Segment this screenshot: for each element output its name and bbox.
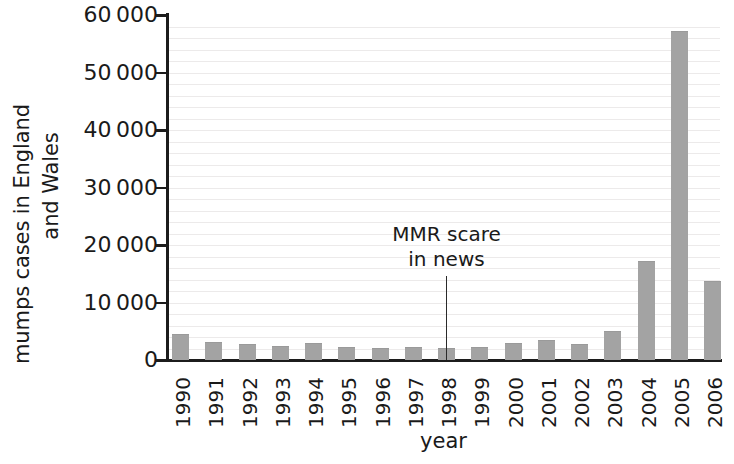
x-axis-tick-text: 1993 [273,377,293,428]
x-axis-tick-text: 1996 [373,377,393,428]
x-axis-tick-text: 2004 [639,377,659,428]
x-axis-tick-label: 2003 [603,364,625,430]
x-axis-tick-labels: 1990199119921993199419951996199719981999… [167,364,720,430]
x-axis-tick-text: 2000 [506,377,526,428]
y-axis-title-line-1: mumps cases in England [8,8,37,364]
x-axis-tick-text: 2005 [672,377,692,428]
bar [538,340,555,360]
bar [505,343,522,360]
x-axis-tick-text: 2002 [572,377,592,428]
x-axis-tick-text: 2001 [539,377,559,428]
x-axis-tick-label: 1995 [337,364,359,430]
mmr-scare-annotation: MMR scare in news [372,222,522,272]
x-axis-tick-text: 1995 [339,377,359,428]
x-axis-tick-label: 2001 [537,364,559,430]
bar [704,281,721,360]
x-axis-tick-text: 2006 [705,377,725,428]
bar [405,347,422,360]
bar [239,344,256,360]
x-axis-tick-label: 2006 [703,364,725,430]
x-axis-tick-label: 2002 [570,364,592,430]
bar [638,261,655,360]
bar [571,344,588,360]
bar [471,347,488,360]
x-axis-tick-label: 1994 [304,364,326,430]
x-axis-tick-label: 1999 [470,364,492,430]
y-axis-tick-label: 30 000 [54,177,158,199]
mumps-cases-bar-chart: mumps cases in England and Wales 010 000… [0,0,734,464]
bar [205,342,222,360]
annotation-leader-line [446,276,448,360]
y-axis-tick-label: 10 000 [54,292,158,314]
bar [305,343,322,360]
annotation-line-2: in news [372,247,522,272]
annotation-line-1: MMR scare [372,222,522,247]
x-axis-tick-text: 2003 [605,377,625,428]
bar [272,346,289,360]
x-axis-tick-label: 1993 [271,364,293,430]
x-axis-tick-label: 1990 [171,364,193,430]
x-axis-tick-text: 1992 [240,377,260,428]
y-axis-tick-labels: 010 00020 00030 00040 00050 00060 000 [54,0,158,372]
x-axis-tick-label: 2000 [504,364,526,430]
y-axis-title: mumps cases in England and Wales [0,0,62,372]
y-axis-tick-label: 0 [54,349,158,371]
bar [372,348,389,360]
y-axis-tick-label: 20 000 [54,234,158,256]
y-axis-tick-label: 40 000 [54,119,158,141]
x-axis-tick-text: 1998 [439,377,459,428]
x-axis-tick-text: 1991 [206,377,226,428]
y-axis-tick-label: 50 000 [54,62,158,84]
y-axis-tick-label: 60 000 [54,4,158,26]
x-axis-tick-label: 2004 [637,364,659,430]
cropped-caption [60,455,720,464]
bar [172,334,189,360]
x-axis-tick-label: 2005 [670,364,692,430]
x-axis-tick-label: 1997 [404,364,426,430]
bar [338,347,355,360]
bar [671,31,688,360]
x-axis-tick-text: 1990 [173,377,193,428]
x-axis-tick-label: 1998 [437,364,459,430]
x-axis-tick-text: 1997 [406,377,426,428]
x-axis-tick-label: 1991 [204,364,226,430]
bar [604,331,621,360]
x-axis-tick-text: 1994 [306,377,326,428]
x-axis-tick-text: 1999 [472,377,492,428]
bar-series [167,15,720,360]
x-axis-tick-label: 1992 [238,364,260,430]
x-axis-tick-label: 1996 [371,364,393,430]
x-axis-title: year [167,430,720,452]
